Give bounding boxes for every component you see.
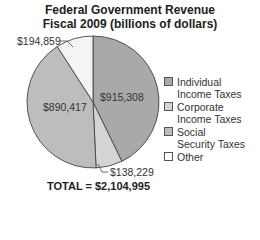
slice-label-social: $890,417 bbox=[43, 101, 87, 113]
legend-label: Social bbox=[177, 126, 245, 138]
legend-label: Other bbox=[177, 151, 203, 163]
slice-label-corporate: $138,229 bbox=[110, 166, 154, 178]
legend-item-individual: IndividualIncome Taxes bbox=[164, 76, 245, 100]
legend-swatch-individual bbox=[164, 77, 173, 86]
slice-label-other: $194,859 bbox=[17, 35, 61, 47]
legend-label: Corporate bbox=[177, 101, 242, 113]
total-label: TOTAL = $2,104,995 bbox=[47, 180, 150, 192]
legend-label: Security Taxes bbox=[177, 138, 245, 150]
legend-label: Income Taxes bbox=[177, 88, 242, 100]
legend-label: Income Taxes bbox=[177, 113, 242, 125]
legend-item-corporate: CorporateIncome Taxes bbox=[164, 101, 245, 125]
legend-item-social: SocialSecurity Taxes bbox=[164, 126, 245, 150]
slice-label-individual: $915,308 bbox=[100, 91, 144, 103]
legend: IndividualIncome Taxes CorporateIncome T… bbox=[164, 76, 245, 164]
legend-swatch-other bbox=[164, 152, 173, 161]
legend-swatch-corporate bbox=[164, 102, 173, 111]
legend-item-other: Other bbox=[164, 151, 245, 163]
legend-swatch-social bbox=[164, 127, 173, 136]
legend-label: Individual bbox=[177, 76, 242, 88]
